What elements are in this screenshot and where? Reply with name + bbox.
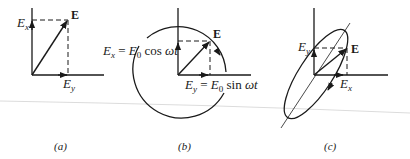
panel-c-vector-label: E xyxy=(351,42,359,56)
panel-b-circular-polarization: E Ex = E0 cos ωt Ey = E0 sin ωt (b) xyxy=(102,8,258,153)
panel-a-vector-label: E xyxy=(71,8,79,22)
panel-a-caption: (a) xyxy=(54,140,67,153)
panel-c-ey-label: Ey xyxy=(297,39,310,56)
panel-a-ey-label: Ey xyxy=(62,76,75,93)
panel-c-elliptical-polarization: E Ey Ex (c) xyxy=(273,8,388,153)
scan-artifact-line xyxy=(0,101,410,113)
panel-c-caption: (c) xyxy=(324,140,337,153)
panel-b-vector-label: E xyxy=(213,27,221,41)
panel-a-field-vector xyxy=(32,21,67,75)
polarization-figure: E Ex Ey (a) E Ex = E0 cos ωt xyxy=(0,0,410,159)
panel-c-ex-label: Ex xyxy=(339,76,352,93)
panel-b-caption: (b) xyxy=(178,140,191,153)
panel-a-linear-polarization: E Ex Ey (a) xyxy=(16,8,104,153)
panel-a-ex-label: Ex xyxy=(16,15,29,32)
panel-b-ey-equation: Ey = E0 sin ωt xyxy=(184,77,258,94)
panel-b-field-vector xyxy=(178,42,209,75)
panel-b-ex-equation: Ex = E0 cos ωt xyxy=(102,43,178,60)
